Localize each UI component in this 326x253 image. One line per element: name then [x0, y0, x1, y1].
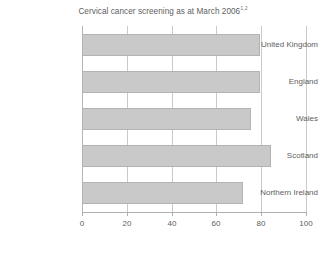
- bar: [82, 34, 260, 56]
- x-axis-tick: [306, 212, 307, 216]
- category-label: Scotland: [287, 145, 318, 167]
- bar-row: [82, 145, 306, 167]
- x-axis-tick-label: 20: [123, 219, 132, 228]
- x-axis-tick-label: 80: [257, 219, 266, 228]
- x-axis-tick: [172, 212, 173, 216]
- x-axis-tick: [82, 212, 83, 216]
- bar: [82, 108, 251, 130]
- x-axis-tick: [261, 212, 262, 216]
- x-axis-tick: [216, 212, 217, 216]
- x-axis-line: [82, 212, 307, 213]
- bar-row: [82, 71, 306, 93]
- x-axis-tick-label: 60: [212, 219, 221, 228]
- category-label: United Kingdom: [261, 34, 318, 56]
- category-label: Northern Ireland: [260, 182, 318, 204]
- chart-title: Cervical cancer screening as at March 20…: [0, 5, 326, 16]
- bar-row: [82, 108, 306, 130]
- bar: [82, 145, 271, 167]
- x-axis-tick: [127, 212, 128, 216]
- x-axis-tick-label: 0: [80, 219, 84, 228]
- category-label: Wales: [296, 108, 318, 130]
- bar: [82, 71, 260, 93]
- bar: [82, 182, 243, 204]
- x-axis-tick-label: 40: [168, 219, 177, 228]
- category-label: England: [289, 71, 318, 93]
- chart-title-footnote-marker: 1,2: [240, 5, 247, 11]
- bar-chart: Cervical cancer screening as at March 20…: [0, 0, 326, 253]
- chart-title-text: Cervical cancer screening as at March 20…: [78, 7, 240, 16]
- x-axis-tick-label: 100: [299, 219, 312, 228]
